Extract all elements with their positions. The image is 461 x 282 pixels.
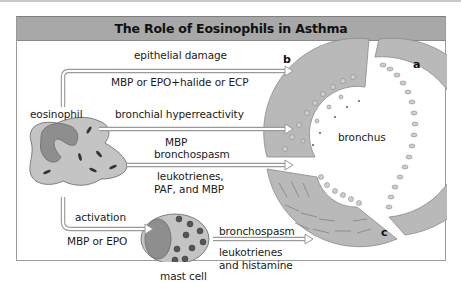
label-bronchial-hyperreactivity: bronchial hyperreactivity <box>115 108 244 120</box>
label-bronchus: bronchus <box>338 131 386 143</box>
label-epithelial-damage: epithelial damage <box>134 49 227 61</box>
label-bronchospasm-1: bronchospasm <box>154 148 230 160</box>
top-divider <box>0 0 461 2</box>
panel-label-c: c <box>381 226 388 239</box>
label-bronchospasm-1-mediators-line2: PAF, and MBP <box>154 183 224 195</box>
figure-frame: The Role of Eosinophils in Asthma <box>16 16 446 261</box>
label-bronchospasm-2-mediators-line2: and histamine <box>219 259 293 271</box>
mast-cell <box>141 214 209 262</box>
label-bronchospasm-1-mediators-line1: leukotrienes, <box>157 170 224 182</box>
label-activation: activation <box>75 211 126 223</box>
panel-label-b: b <box>283 53 291 66</box>
label-mast-cell: mast cell <box>160 270 207 282</box>
panel-label-a: a <box>413 58 420 71</box>
label-bronchospasm-2-mediators-line1: leukotrienes <box>219 246 282 258</box>
label-hyperreactivity-mediators: MBP <box>165 136 187 148</box>
label-activation-mediators: MBP or EPO <box>67 235 127 247</box>
label-epithelial-damage-mediators: MBP or EPO+halide or ECP <box>111 76 248 88</box>
label-eosinophil: eosinophil <box>30 108 83 120</box>
label-bronchospasm-2: bronchospasm <box>219 225 295 237</box>
